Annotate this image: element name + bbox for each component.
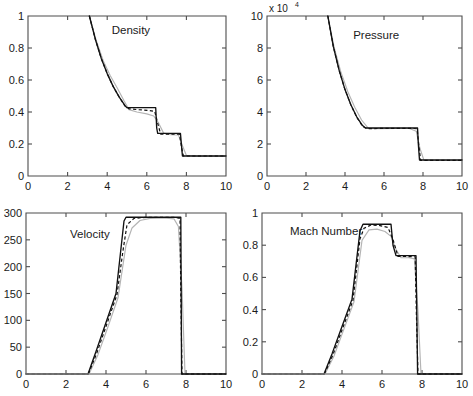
- y-tick-label: 0.4: [9, 106, 24, 118]
- y-tick-label: 8: [257, 42, 263, 54]
- y-tick-label: 0.2: [9, 138, 24, 150]
- y-tick-label: 0: [252, 368, 258, 380]
- y-tick-label: 50: [10, 341, 22, 353]
- panel-title: Density: [112, 24, 151, 36]
- x-tick-label: 2: [299, 378, 305, 390]
- series-exact: [88, 217, 226, 374]
- y-tick-label: 0.8: [9, 42, 24, 54]
- y-tick-label: 1: [18, 10, 24, 22]
- x-tick-label: 10: [220, 180, 232, 192]
- y-tick-label: 6: [257, 74, 263, 86]
- panel-title: Velocity: [70, 228, 110, 240]
- panel-velocity: 0246810050100150200250300Velocity: [0, 197, 237, 396]
- panel-title: Pressure: [353, 29, 399, 41]
- y-tick-label: 0.4: [243, 304, 258, 316]
- plot-pressure: 02468100246810x 104Pressure: [236, 0, 473, 198]
- panel-title: Mach Number: [290, 225, 362, 237]
- x-tick-label: 6: [381, 180, 387, 192]
- y-tick-label: 10: [251, 10, 263, 22]
- figure-canvas: 024681000.20.40.60.81Density 02468100246…: [0, 0, 473, 396]
- x-tick-label: 2: [65, 180, 71, 192]
- x-tick-label: 0: [25, 180, 31, 192]
- plot-frame: [28, 16, 226, 176]
- series-numerical-dashed: [89, 16, 226, 156]
- x-tick-label: 10: [456, 180, 468, 192]
- y-tick-label: 150: [4, 288, 22, 300]
- y-tick-label: 100: [4, 314, 22, 326]
- y-tick-label: 0: [18, 170, 24, 182]
- panel-density: 024681000.20.40.60.81Density: [0, 0, 237, 198]
- y-tick-label: 0.8: [243, 239, 258, 251]
- x-tick-label: 0: [264, 180, 270, 192]
- x-tick-label: 2: [303, 180, 309, 192]
- x-tick-label: 4: [339, 378, 345, 390]
- series-numerical-diffused: [89, 218, 226, 374]
- x-tick-label: 4: [342, 180, 348, 192]
- y-tick-label: 0: [16, 368, 22, 380]
- axis-exponent-label: x 10: [269, 3, 288, 14]
- x-tick-label: 4: [103, 378, 109, 390]
- panel-pressure: 02468100246810x 104Pressure: [236, 0, 473, 198]
- x-tick-label: 6: [144, 180, 150, 192]
- x-tick-label: 10: [456, 378, 468, 390]
- x-tick-label: 6: [379, 378, 385, 390]
- y-tick-label: 0.2: [243, 336, 258, 348]
- x-tick-label: 2: [63, 378, 69, 390]
- series-exact: [324, 224, 462, 374]
- y-tick-label: 0.6: [243, 271, 258, 283]
- x-tick-label: 10: [220, 378, 232, 390]
- y-tick-label: 0: [257, 170, 263, 182]
- y-tick-label: 1: [252, 207, 258, 219]
- plot-frame: [262, 213, 462, 374]
- x-tick-label: 8: [183, 378, 189, 390]
- y-tick-label: 300: [4, 207, 22, 219]
- y-tick-label: 4: [257, 106, 263, 118]
- plot-mach-number: 024681000.20.40.60.81Mach Number: [236, 197, 473, 396]
- plot-frame: [26, 213, 226, 374]
- panel-mach-number: 024681000.20.40.60.81Mach Number: [236, 197, 473, 396]
- y-tick-label: 2: [257, 138, 263, 150]
- x-tick-label: 8: [183, 180, 189, 192]
- series-numerical-diffused: [89, 16, 226, 156]
- series-numerical-diffused: [325, 229, 462, 374]
- x-tick-label: 4: [104, 180, 110, 192]
- plot-velocity: 0246810050100150200250300Velocity: [0, 197, 237, 396]
- y-tick-label: 0.6: [9, 74, 24, 86]
- y-tick-label: 200: [4, 261, 22, 273]
- series-numerical-dashed: [88, 217, 226, 374]
- x-tick-label: 0: [259, 378, 265, 390]
- axis-exponent-power: 4: [295, 1, 299, 8]
- x-tick-label: 0: [23, 378, 29, 390]
- plot-density: 024681000.20.40.60.81Density: [0, 0, 237, 198]
- series-exact: [89, 16, 226, 156]
- x-tick-label: 8: [419, 378, 425, 390]
- y-tick-label: 250: [4, 234, 22, 246]
- x-tick-label: 8: [420, 180, 426, 192]
- x-tick-label: 6: [143, 378, 149, 390]
